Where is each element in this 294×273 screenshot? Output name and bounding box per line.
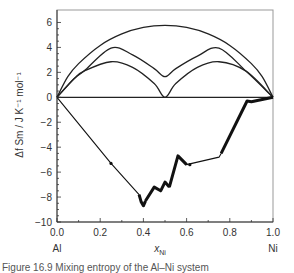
y-tick-label: −4 [41, 142, 53, 153]
y-tick-label: 2 [46, 67, 52, 78]
x-axis-label: xNi [153, 243, 166, 256]
x-right-end-label: Ni [268, 243, 277, 254]
x-tick-label: 0.2 [93, 227, 107, 238]
x-tick-label: 0.6 [180, 227, 194, 238]
data-point-marker [109, 162, 112, 165]
series-layer [57, 25, 273, 205]
y-tick-label: 4 [46, 42, 52, 53]
y-tick-label: 0 [46, 92, 52, 103]
series-line [57, 47, 273, 97]
experimental-cluster [146, 182, 170, 201]
figure-caption: Figure 16.9 Mixing entropy of the Al–Ni … [2, 262, 209, 273]
y-axis-label: Δf Sm / J K⁻¹ mol⁻¹ [14, 72, 25, 158]
x-tick-label: 1.0 [266, 227, 280, 238]
y-tick-label: 6 [46, 17, 52, 28]
experimental-cluster [221, 97, 273, 153]
x-tick-label: 0.8 [223, 227, 237, 238]
experimental-cluster [169, 156, 186, 187]
x-tick-label: 0.0 [50, 227, 64, 238]
data-point-marker [188, 163, 191, 166]
y-tick-label: −2 [41, 117, 53, 128]
axis-ticks: 6420−2−4−6−8−100.00.20.40.60.81.0 [35, 17, 280, 238]
x-left-end-label: Al [53, 243, 62, 254]
series-line [57, 25, 273, 97]
y-tick-label: −8 [41, 192, 53, 203]
y-tick-label: −10 [35, 217, 52, 228]
x-tick-label: 0.4 [136, 227, 150, 238]
y-tick-label: −6 [41, 167, 53, 178]
series-line [57, 62, 273, 98]
